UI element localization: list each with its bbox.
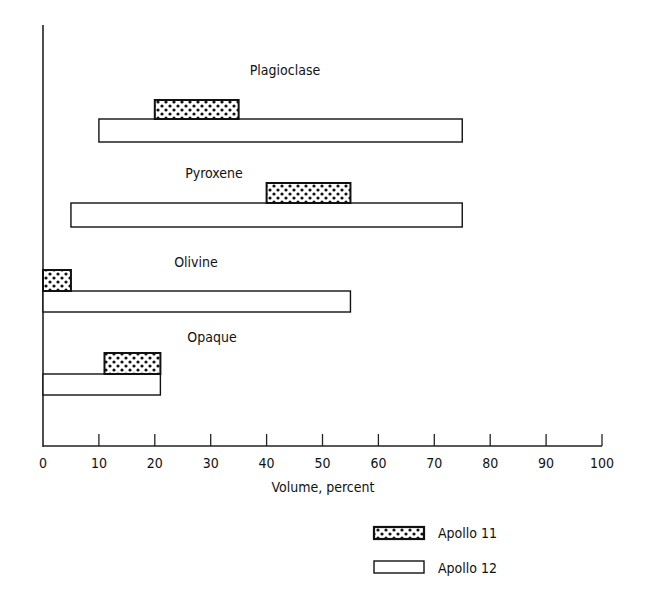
legend: Apollo 11 Apollo 12 bbox=[374, 525, 497, 576]
legend-label-apollo-11: Apollo 11 bbox=[438, 525, 497, 541]
x-ticks: 0102030405060708090100 bbox=[39, 434, 614, 471]
x-tick-label: 0 bbox=[39, 455, 47, 471]
axes: 0102030405060708090100 Volume, percent bbox=[39, 25, 614, 495]
bar-apollo-12 bbox=[43, 291, 350, 312]
x-tick-label: 20 bbox=[147, 455, 163, 471]
x-tick-label: 50 bbox=[314, 455, 330, 471]
legend-label-apollo-12: Apollo 12 bbox=[438, 560, 497, 576]
legend-swatch-apollo-12 bbox=[374, 561, 424, 573]
x-tick-label: 100 bbox=[590, 455, 614, 471]
x-tick-label: 60 bbox=[370, 455, 386, 471]
range-bar-chart: 0102030405060708090100 Volume, percent P… bbox=[0, 0, 652, 596]
x-tick-label: 80 bbox=[482, 455, 498, 471]
bar-apollo-11 bbox=[155, 100, 239, 119]
category-label: Opaque bbox=[187, 329, 237, 345]
x-tick-label: 30 bbox=[203, 455, 219, 471]
x-tick-label: 70 bbox=[426, 455, 442, 471]
bar-apollo-12 bbox=[71, 203, 462, 227]
bar-apollo-11 bbox=[43, 270, 71, 291]
legend-swatch-apollo-11 bbox=[374, 527, 424, 539]
category-label: Olivine bbox=[174, 254, 218, 270]
x-tick-label: 90 bbox=[538, 455, 554, 471]
bar-apollo-12 bbox=[43, 374, 160, 395]
bars bbox=[43, 100, 462, 395]
x-tick-label: 40 bbox=[259, 455, 275, 471]
category-label: Pyroxene bbox=[185, 165, 243, 181]
bar-apollo-11 bbox=[104, 353, 160, 374]
x-axis-label: Volume, percent bbox=[272, 479, 375, 495]
bar-apollo-11 bbox=[267, 183, 351, 203]
category-label: Plagioclase bbox=[250, 62, 321, 78]
x-tick-label: 10 bbox=[91, 455, 107, 471]
bar-apollo-12 bbox=[99, 119, 462, 142]
